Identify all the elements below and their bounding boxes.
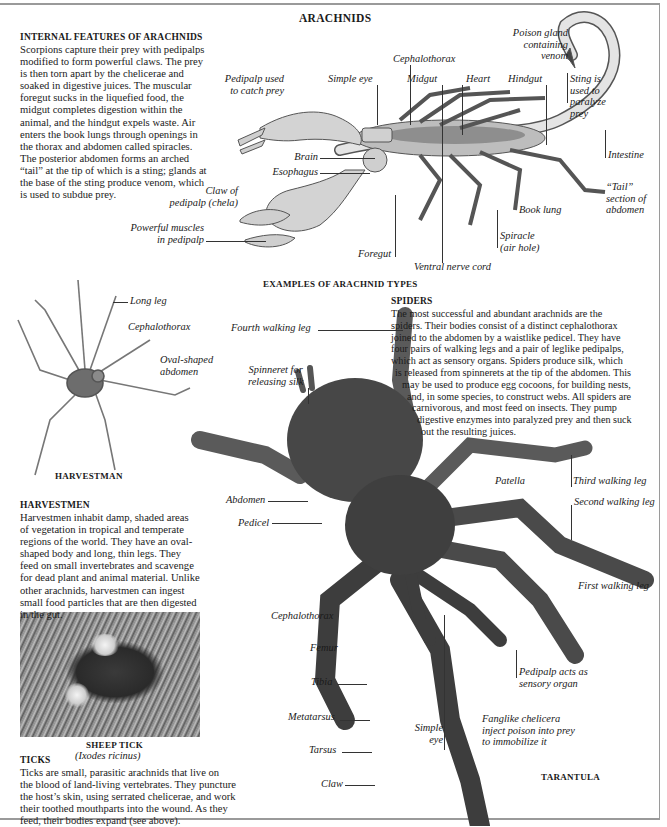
leader-line — [571, 505, 572, 540]
label-cephalothorax-scorpion: Cephalothorax — [393, 53, 455, 65]
harvestman-caption: HARVESTMAN — [55, 471, 123, 481]
label-patella: Patella — [495, 475, 525, 487]
label-midgut: Midgut — [407, 73, 437, 85]
label-third-walking-leg: Third walking leg — [573, 475, 647, 487]
label-simple-eye-scorpion: Simple eye — [328, 73, 373, 85]
internal-features-text: Scorpions capture their prey with pedipa… — [20, 44, 207, 201]
leader-line — [337, 684, 367, 685]
leader-line — [516, 650, 517, 678]
harvestman-illustration — [18, 280, 190, 475]
sheep-tick-caption: SHEEP TICK — [86, 740, 143, 750]
label-tarsus: Tarsus — [309, 744, 336, 756]
spiders-text: The most successful and abundant arachni… — [391, 308, 632, 438]
leader-line — [605, 130, 606, 158]
label-poison-gland: Poison gland containing venom — [478, 27, 568, 62]
leader-line — [268, 501, 308, 502]
label-heart: Heart — [466, 73, 490, 85]
label-esophagus: Esophagus — [260, 166, 318, 178]
label-second-walking-leg: Second walking leg — [574, 496, 655, 508]
leader-line — [377, 85, 378, 125]
label-hindgut: Hindgut — [508, 73, 542, 85]
label-simple-eye-tarantula: Simple eye — [405, 722, 443, 745]
label-pedipalp-sensory: Pedipalp acts as sensory organ — [519, 666, 588, 689]
internal-features-heading: INTERNAL FEATURES OF ARACHNIDS — [20, 32, 203, 42]
label-first-walking-leg: First walking leg — [578, 580, 649, 592]
section-subtitle: EXAMPLES OF ARACHNID TYPES — [263, 279, 418, 289]
tarantula-caption: TARANTULA — [541, 772, 600, 782]
label-metatarsus: Metatarsus — [288, 711, 335, 723]
label-spinneret: Spinneret for releasing silk — [248, 364, 303, 387]
label-book-lung: Book lung — [519, 204, 561, 216]
label-long-leg: Long leg — [130, 295, 167, 307]
label-cephalothorax-tarantula: Cephalothorax — [271, 610, 333, 622]
leader-line — [546, 85, 547, 145]
leader-line — [206, 241, 266, 242]
leader-line — [345, 785, 375, 786]
label-pedicel: Pedicel — [238, 517, 269, 529]
ticks-heading: TICKS — [20, 755, 51, 765]
label-brain: Brain — [280, 151, 318, 163]
leader-line — [340, 720, 370, 721]
label-oval-abdomen: Oval-shaped abdomen — [160, 354, 213, 377]
harvestmen-heading: HARVESTMEN — [20, 500, 90, 510]
harvestmen-text: Harvestmen inhabit damp, shaded areas of… — [20, 512, 200, 621]
leader-line — [342, 752, 372, 753]
label-pedipalp-used: Pedipalp used to catch prey — [200, 73, 284, 96]
label-tibia: Tibia — [311, 676, 332, 688]
leader-line — [113, 302, 128, 303]
sheep-tick-photo — [20, 612, 200, 737]
label-fanglike-chelicera: Fanglike chelicera inject poison into pr… — [482, 713, 575, 748]
label-powerful-muscles: Powerful muscles in pedipalp — [120, 222, 204, 245]
leader-line — [444, 615, 445, 750]
label-spiracle: Spiracle (air hole) — [500, 230, 540, 253]
leader-line — [567, 73, 568, 103]
leader-line — [320, 173, 370, 174]
ticks-text: Ticks are small, parasitic arachnids tha… — [20, 767, 236, 827]
leader-line — [571, 455, 572, 487]
sheep-tick-species: (Ixodes ricinus) — [75, 750, 141, 761]
label-fourth-walking-leg: Fourth walking leg — [231, 322, 311, 334]
label-abdomen-tarantula: Abdomen — [226, 494, 265, 506]
leader-line — [272, 523, 322, 524]
label-femur: Femur — [310, 642, 338, 654]
tick-highlight — [90, 634, 120, 656]
leader-line — [318, 330, 403, 331]
label-claw: Claw — [321, 778, 343, 790]
tick-highlight — [65, 683, 89, 707]
page-title: ARACHNIDS — [299, 12, 371, 24]
leader-line — [462, 85, 463, 135]
spiders-heading: SPIDERS — [391, 296, 433, 306]
leader-line — [320, 158, 375, 159]
leader-line — [395, 195, 396, 257]
label-foregut: Foregut — [358, 248, 391, 260]
label-sting: Sting is used to paralyze prey — [570, 73, 606, 119]
leader-line — [308, 388, 309, 404]
label-cephalothorax-harvestman: Cephalothorax — [128, 321, 190, 333]
leader-line — [442, 85, 443, 263]
label-claw-of-pedipalp: Claw of pedipalp (chela) — [160, 185, 238, 208]
leader-line — [497, 210, 498, 248]
leader-line — [410, 65, 411, 125]
label-tail-section: “Tail” section of abdomen — [606, 181, 646, 216]
label-ventral-nerve-cord: Ventral nerve cord — [414, 261, 491, 273]
label-intestine: Intestine — [608, 149, 644, 161]
